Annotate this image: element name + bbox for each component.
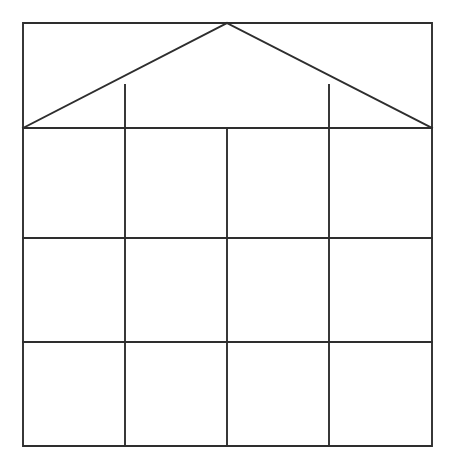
grid-house-diagram <box>0 0 452 466</box>
figure-canvas <box>0 0 452 466</box>
diagram-background <box>0 0 452 466</box>
